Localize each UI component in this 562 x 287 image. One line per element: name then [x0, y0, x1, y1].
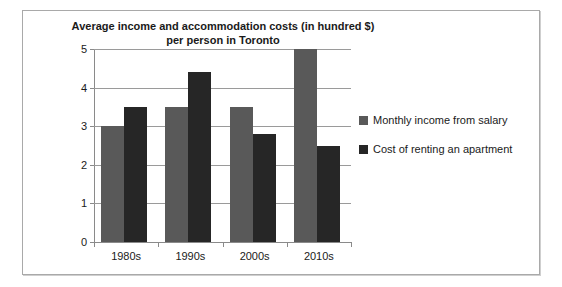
chart-title: Average income and accommodation costs (… — [63, 19, 383, 47]
bar[interactable] — [188, 72, 211, 242]
bar[interactable] — [294, 49, 317, 242]
chart-title-line-2: per person in Toronto — [63, 33, 383, 47]
x-tick-mark — [158, 242, 159, 247]
x-tick-label: 2000s — [223, 250, 287, 262]
legend-swatch-renting-cost — [359, 145, 368, 154]
chart-figure: Average income and accommodation costs (… — [22, 10, 540, 275]
x-tick-label: 2010s — [287, 250, 351, 262]
y-tick-label: 0 — [81, 236, 87, 248]
bar[interactable] — [165, 107, 188, 242]
y-tick-label: 2 — [81, 159, 87, 171]
y-tick-label: 5 — [81, 43, 87, 55]
plot-area: 012345 1980s1990s2000s2010s — [94, 49, 351, 242]
y-tick-label: 1 — [81, 197, 87, 209]
y-tick-label: 3 — [81, 120, 87, 132]
x-tick-mark — [223, 242, 224, 247]
x-tick-label: 1990s — [158, 250, 222, 262]
legend-swatch-monthly-income — [359, 116, 368, 125]
bar[interactable] — [124, 107, 147, 242]
bar-group — [94, 49, 158, 242]
x-tick-mark — [94, 242, 95, 247]
bar-group — [158, 49, 222, 242]
x-tick-mark — [351, 242, 352, 247]
chart-legend: Monthly income from salary Cost of renti… — [359, 113, 529, 171]
bar-group — [223, 49, 287, 242]
bar[interactable] — [101, 126, 124, 242]
legend-item[interactable]: Cost of renting an apartment — [359, 142, 529, 156]
chart-title-line-1: Average income and accommodation costs (… — [63, 19, 383, 33]
legend-label-renting-cost: Cost of renting an apartment — [373, 142, 512, 156]
bars-layer — [94, 49, 351, 242]
x-tick-mark — [287, 242, 288, 247]
bar-group — [287, 49, 351, 242]
legend-item[interactable]: Monthly income from salary — [359, 113, 529, 127]
bar[interactable] — [253, 134, 276, 242]
legend-label-monthly-income: Monthly income from salary — [373, 113, 508, 127]
y-tick-label: 4 — [81, 82, 87, 94]
x-tick-label: 1980s — [94, 250, 158, 262]
bar[interactable] — [317, 146, 340, 243]
bar[interactable] — [230, 107, 253, 242]
